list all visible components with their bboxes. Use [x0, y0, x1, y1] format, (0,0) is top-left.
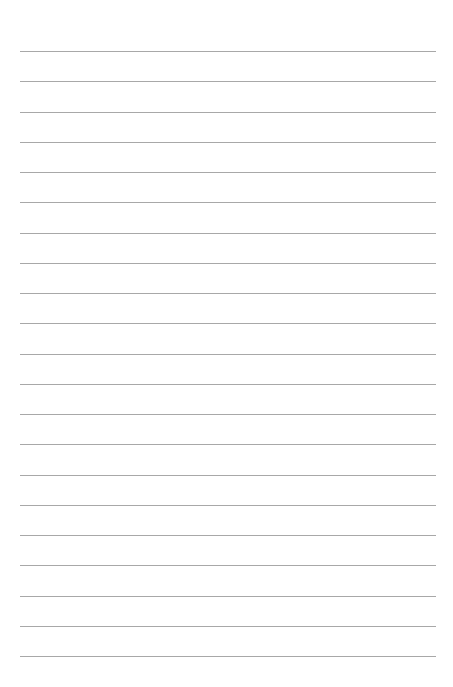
ruled-line [20, 263, 436, 264]
ruled-line [20, 51, 436, 52]
ruled-line [20, 384, 436, 385]
ruled-line [20, 414, 436, 415]
ruled-line [20, 354, 436, 355]
ruled-line [20, 142, 436, 143]
ruled-line [20, 233, 436, 234]
ruled-line [20, 323, 436, 324]
ruled-line [20, 626, 436, 627]
ruled-line [20, 172, 436, 173]
ruled-line [20, 293, 436, 294]
ruled-line [20, 202, 436, 203]
ruled-line [20, 444, 436, 445]
lined-paper-page [0, 0, 453, 687]
ruled-line [20, 656, 436, 657]
ruled-line [20, 112, 436, 113]
ruled-line [20, 81, 436, 82]
ruled-line [20, 535, 436, 536]
ruled-line [20, 596, 436, 597]
ruled-line [20, 475, 436, 476]
ruled-line [20, 505, 436, 506]
ruled-line [20, 565, 436, 566]
